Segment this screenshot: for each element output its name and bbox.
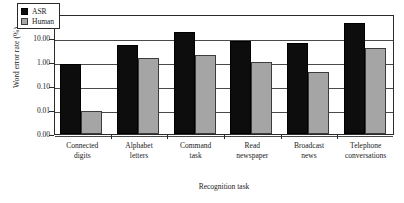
x-tick-mark xyxy=(167,135,168,139)
bar-group xyxy=(55,16,112,134)
x-tick-label-line: news xyxy=(281,151,338,161)
x-tick-label-line: letters xyxy=(111,151,168,161)
x-tick-label-line: Connected xyxy=(54,141,111,151)
y-tick-label: 0.00 xyxy=(8,131,50,139)
y-tick-mark xyxy=(49,111,54,112)
bar-human-telephone-conversations xyxy=(365,48,386,134)
legend-item-asr: ASR xyxy=(21,6,54,16)
x-tick-mark xyxy=(281,135,282,139)
bar-asr-connected-digits xyxy=(60,64,81,134)
bar-human-alphabet-letters xyxy=(138,58,159,134)
x-tick-mark xyxy=(337,135,338,139)
x-tick-label: Connecteddigits xyxy=(54,141,111,160)
y-tick-mark xyxy=(49,87,54,88)
bar-asr-telephone-conversations xyxy=(344,23,365,134)
bar-group xyxy=(168,16,225,134)
x-tick-label-line: Telephone xyxy=(337,141,394,151)
bar-human-command-task xyxy=(195,55,216,134)
bar-human-broadcast-news xyxy=(308,72,329,134)
x-tick-mark xyxy=(111,135,112,139)
bar-human-read-newspaper xyxy=(251,62,272,134)
y-tick-label: 0.01 xyxy=(8,107,50,115)
legend-item-human: Human xyxy=(21,16,54,26)
bars-layer xyxy=(55,16,393,134)
bar-human-connected-digits xyxy=(81,111,102,134)
legend: ASRHuman xyxy=(17,3,60,29)
x-tick-label: Broadcastnews xyxy=(281,141,338,160)
legend-label: Human xyxy=(32,17,54,26)
y-tick-mark xyxy=(49,63,54,64)
x-tick-label-line: Read xyxy=(224,141,281,151)
y-tick-label: 1.00 xyxy=(8,59,50,67)
bar-group xyxy=(112,16,169,134)
legend-swatch-human-icon xyxy=(21,18,28,25)
x-tick-label: Telephoneconversations xyxy=(337,141,394,160)
x-axis-tick-labels: ConnecteddigitsAlphabetlettersCommandtas… xyxy=(54,141,394,173)
y-tick-label: 10.00 xyxy=(8,35,50,43)
bar-chart-figure: Word error rate (%) 100.0010.001.000.100… xyxy=(0,0,404,203)
x-tick-label-line: task xyxy=(167,151,224,161)
x-axis-title: Recognition task xyxy=(54,182,394,191)
bar-asr-alphabet-letters xyxy=(117,45,138,134)
x-tick-label-line: Command xyxy=(167,141,224,151)
x-tick-label: Alphabetletters xyxy=(111,141,168,160)
plot-area xyxy=(54,15,394,135)
legend-swatch-asr-icon xyxy=(21,8,28,15)
x-tick-mark xyxy=(224,135,225,139)
y-tick-mark xyxy=(49,39,54,40)
bar-group xyxy=(225,16,282,134)
bar-asr-broadcast-news xyxy=(287,43,308,135)
legend-label: ASR xyxy=(32,7,47,16)
x-tick-label: Commandtask xyxy=(167,141,224,160)
bar-asr-command-task xyxy=(174,32,195,134)
y-tick-label: 0.10 xyxy=(8,83,50,91)
y-axis-tick-labels: 100.0010.001.000.100.010.00 xyxy=(8,0,50,203)
x-tick-label-line: newspaper xyxy=(224,151,281,161)
bar-group xyxy=(338,16,395,134)
bar-group xyxy=(282,16,339,134)
y-tick-mark xyxy=(49,135,54,136)
x-tick-label: Readnewspaper xyxy=(224,141,281,160)
x-tick-label-line: conversations xyxy=(337,151,394,161)
x-tick-label-line: digits xyxy=(54,151,111,161)
x-tick-label-line: Alphabet xyxy=(111,141,168,151)
x-tick-label-line: Broadcast xyxy=(281,141,338,151)
bar-asr-read-newspaper xyxy=(230,41,251,134)
